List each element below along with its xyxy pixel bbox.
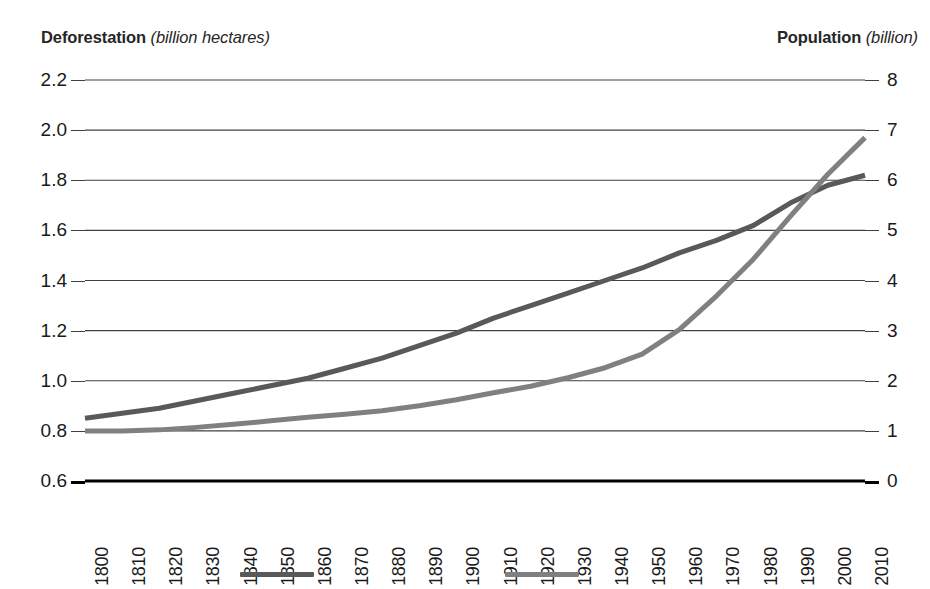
- y-axis-right-tick-label: 4: [887, 270, 927, 292]
- left-axis-title: Deforestation (billion hectares): [41, 28, 270, 47]
- y-axis-right-tick-mark: [865, 230, 879, 231]
- y-axis-left-tick-label: 1.2: [7, 320, 67, 342]
- series-lines: [85, 138, 865, 431]
- y-axis-left-tick-mark: [71, 130, 85, 131]
- y-axis-right-tick-label: 3: [887, 320, 927, 342]
- y-axis-right-tick-mark: [865, 331, 879, 332]
- y-axis-right-tick-label: 7: [887, 119, 927, 141]
- y-axis-right-tick-mark: [865, 80, 879, 81]
- plot-svg: [85, 80, 865, 481]
- chart-container: Deforestation (billion hectares) Populat…: [0, 0, 930, 589]
- legend-swatch-population: [505, 572, 579, 577]
- y-axis-right-tick-label: 5: [887, 219, 927, 241]
- legend-swatch-deforestation: [240, 572, 314, 577]
- y-axis-left-tick-mark: [71, 381, 85, 382]
- x-axis-labels: 1800181018201830184018501860187018801890…: [0, 489, 930, 559]
- y-axis-left-tick-label: 0.8: [7, 420, 67, 442]
- y-axis-right-tick-mark: [865, 481, 879, 484]
- y-axis-left-tick-mark: [71, 230, 85, 231]
- y-axis-left-tick-label: 2.2: [7, 69, 67, 91]
- plot-area: [85, 80, 865, 481]
- y-axis-left-tick-label: 1.6: [7, 219, 67, 241]
- series-line-deforestation: [85, 175, 865, 418]
- y-axis-left-tick-mark: [71, 180, 85, 181]
- y-axis-left-tick-mark: [71, 481, 85, 484]
- right-axis-title-name: Population: [777, 28, 861, 46]
- y-axis-right-tick-label: 2: [887, 370, 927, 392]
- y-axis-right-tick-label: 8: [887, 69, 927, 91]
- right-axis-title-unit: (billion): [866, 28, 918, 46]
- left-axis-title-unit: (billion hectares): [151, 28, 270, 46]
- left-axis-title-name: Deforestation: [41, 28, 146, 46]
- right-axis-title: Population (billion): [777, 28, 918, 47]
- y-axis-right-tick-mark: [865, 130, 879, 131]
- y-axis-left-tick-mark: [71, 431, 85, 432]
- y-axis-left-tick-mark: [71, 281, 85, 282]
- y-axis-right-tick-mark: [865, 281, 879, 282]
- series-line-population: [85, 138, 865, 431]
- chart-legend: [0, 566, 930, 586]
- y-axis-right-tick-mark: [865, 180, 879, 181]
- y-axis-right-tick-mark: [865, 381, 879, 382]
- y-axis-right-tick-label: 1: [887, 420, 927, 442]
- gridlines: [85, 80, 865, 481]
- legend-item[interactable]: [240, 566, 320, 582]
- y-axis-right-tick-mark: [865, 431, 879, 432]
- y-axis-left-tick-mark: [71, 331, 85, 332]
- y-axis-left-tick-label: 1.4: [7, 270, 67, 292]
- y-axis-left-tick-label: 1.8: [7, 169, 67, 191]
- legend-item[interactable]: [505, 566, 585, 582]
- y-axis-right-tick-label: 6: [887, 169, 927, 191]
- y-axis-left-tick-mark: [71, 80, 85, 81]
- y-axis-left-tick-label: 2.0: [7, 119, 67, 141]
- y-axis-left-tick-label: 1.0: [7, 370, 67, 392]
